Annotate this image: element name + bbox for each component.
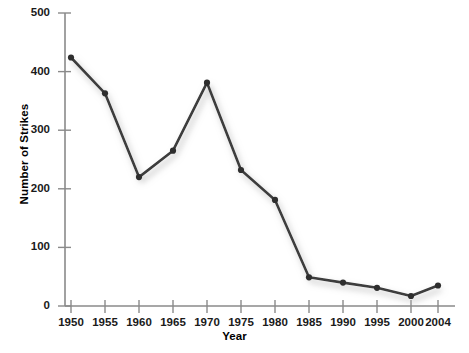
y-tick-label-500: 500 — [10, 6, 50, 18]
data-point — [204, 80, 210, 86]
data-point — [238, 167, 244, 173]
y-tick-label-100: 100 — [10, 240, 50, 252]
axis-lines — [65, 13, 455, 306]
data-point — [306, 274, 312, 280]
data-point — [102, 90, 108, 96]
data-point — [136, 174, 142, 180]
data-point — [408, 293, 414, 299]
data-point — [170, 148, 176, 154]
y-tick-label-300: 300 — [10, 123, 50, 135]
data-point — [340, 280, 346, 286]
y-tick-label-400: 400 — [10, 65, 50, 77]
data-line — [71, 58, 438, 297]
data-point — [435, 282, 441, 288]
data-point — [68, 54, 74, 60]
x-tick-label-2004: 2004 — [417, 316, 459, 328]
x-axis-title: Year — [0, 330, 469, 342]
line-chart: 500 400 300 200 100 0 1950 1955 1960 196… — [0, 0, 469, 353]
plot-area — [0, 0, 469, 353]
data-point-markers — [68, 54, 441, 299]
data-point — [374, 285, 380, 291]
y-tick-label-0: 0 — [10, 299, 50, 311]
y-axis-title: Number of Strikes — [18, 64, 30, 244]
y-tick-label-200: 200 — [10, 182, 50, 194]
data-point — [272, 197, 278, 203]
